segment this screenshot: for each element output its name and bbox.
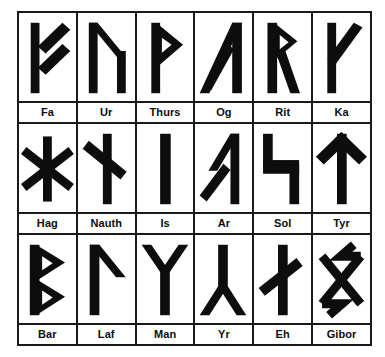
rune-ar-icon: [195, 124, 252, 212]
rune-label-box: Fa: [19, 101, 76, 122]
rune-chart-grid: Fa Ur: [17, 11, 372, 346]
rune-label: Sol: [274, 218, 291, 229]
rune-label: Fa: [41, 107, 54, 118]
rune-cell-thurs[interactable]: Thurs: [137, 13, 196, 122]
rune-label: Ar: [218, 218, 230, 229]
rune-label: Laf: [98, 329, 115, 340]
rune-cell-eh[interactable]: Eh: [254, 235, 313, 344]
rune-label-box: Ur: [78, 101, 135, 122]
rune-label-box: Sol: [254, 212, 311, 233]
rune-label: Gibor: [327, 329, 357, 340]
rune-label-box: Rit: [254, 101, 311, 122]
rune-label: Eh: [276, 329, 290, 340]
rune-ka-icon: [313, 13, 370, 101]
rune-yr-icon: [195, 235, 252, 323]
rune-label-box: Laf: [78, 323, 135, 344]
rune-label-box: Gibor: [313, 323, 370, 344]
rune-row: Bar Laf: [19, 235, 370, 344]
rune-cell-is[interactable]: Is: [137, 124, 196, 233]
rune-ur-icon: [78, 13, 135, 101]
rune-label: Yr: [218, 329, 230, 340]
rune-label-box: Bar: [19, 323, 76, 344]
rune-hag-icon: [19, 124, 76, 212]
rune-label: Is: [160, 218, 169, 229]
rune-label: Tyr: [333, 218, 350, 229]
rune-cell-hag[interactable]: Hag: [19, 124, 78, 233]
rune-cell-laf[interactable]: Laf: [78, 235, 137, 344]
rune-label-box: Nauth: [78, 212, 135, 233]
rune-cell-ar[interactable]: Ar: [195, 124, 254, 233]
rune-laf-icon: [78, 235, 135, 323]
rune-cell-bar[interactable]: Bar: [19, 235, 78, 344]
rune-label-box: Og: [195, 101, 252, 122]
rune-label-box: Man: [137, 323, 194, 344]
rune-label-box: Hag: [19, 212, 76, 233]
rune-cell-rit[interactable]: Rit: [254, 13, 313, 122]
rune-label-box: Is: [137, 212, 194, 233]
rune-bar-icon: [19, 235, 76, 323]
rune-fa-icon: [19, 13, 76, 101]
rune-label: Ka: [334, 107, 348, 118]
rune-label-box: Thurs: [137, 101, 194, 122]
rune-cell-tyr[interactable]: Tyr: [313, 124, 370, 233]
rune-row: Fa Ur: [19, 13, 370, 124]
rune-label: Hag: [37, 218, 58, 229]
rune-label-box: Yr: [195, 323, 252, 344]
rune-row: Hag Nauth: [19, 124, 370, 235]
rune-cell-yr[interactable]: Yr: [195, 235, 254, 344]
rune-cell-nauth[interactable]: Nauth: [78, 124, 137, 233]
rune-cell-ka[interactable]: Ka: [313, 13, 370, 122]
rune-label: Nauth: [90, 218, 122, 229]
rune-cell-fa[interactable]: Fa: [19, 13, 78, 122]
rune-cell-og[interactable]: Og: [195, 13, 254, 122]
rune-sol-icon: [254, 124, 311, 212]
rune-man-icon: [137, 235, 194, 323]
rune-gibor-icon: [313, 235, 370, 323]
rune-rit-icon: [254, 13, 311, 101]
rune-tyr-icon: [313, 124, 370, 212]
rune-thurs-icon: [137, 13, 194, 101]
rune-cell-sol[interactable]: Sol: [254, 124, 313, 233]
rune-label-box: Tyr: [313, 212, 370, 233]
rune-cell-ur[interactable]: Ur: [78, 13, 137, 122]
rune-og-icon: [195, 13, 252, 101]
rune-label: Rit: [275, 107, 290, 118]
rune-is-icon: [137, 124, 194, 212]
rune-nauth-icon: [78, 124, 135, 212]
rune-label-box: Eh: [254, 323, 311, 344]
rune-cell-man[interactable]: Man: [137, 235, 196, 344]
rune-label: Ur: [100, 107, 112, 118]
rune-eh-icon: [254, 235, 311, 323]
rune-label: Thurs: [150, 107, 181, 118]
rune-label-box: Ka: [313, 101, 370, 122]
rune-label: Bar: [38, 329, 57, 340]
rune-cell-gibor[interactable]: Gibor: [313, 235, 370, 344]
rune-label: Og: [216, 107, 231, 118]
rune-label: Man: [154, 329, 176, 340]
rune-label-box: Ar: [195, 212, 252, 233]
